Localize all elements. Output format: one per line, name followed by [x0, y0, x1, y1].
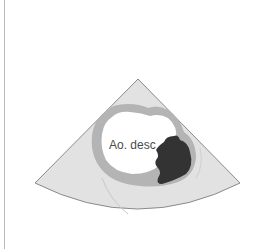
vessel-label: Ao. desc	[109, 138, 156, 152]
echo-diagram: Ao. desc	[0, 0, 268, 249]
